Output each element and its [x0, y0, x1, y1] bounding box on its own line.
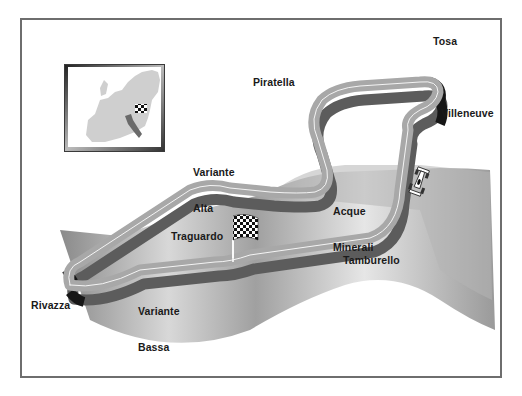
label-variante-alta: Variante Alta [193, 142, 235, 226]
label-rivazza: Rivazza [31, 299, 70, 311]
europe-inset-map [64, 64, 165, 152]
inset-checkered-flag-icon [135, 104, 147, 113]
label-villeneuve: Villeneuve [441, 107, 494, 119]
label-variante-bassa-line1: Variante [138, 305, 180, 317]
label-acque-minerali: Acque Minerali [333, 181, 373, 265]
circuit-map-canvas [0, 0, 522, 396]
label-variante-alta-line1: Variante [193, 166, 235, 178]
label-acque-minerali-line1: Acque [333, 205, 373, 217]
label-tamburello: Tamburello [343, 254, 400, 266]
label-tosa: Tosa [433, 35, 457, 47]
label-acque-minerali-line2: Minerali [333, 241, 373, 253]
label-traguardo: Traguardo [171, 230, 223, 242]
label-piratella: Piratella [253, 76, 295, 88]
label-variante-alta-line2: Alta [193, 202, 235, 214]
label-variante-bassa-line2: Bassa [138, 341, 180, 353]
label-variante-bassa: Variante Bassa [138, 281, 180, 365]
